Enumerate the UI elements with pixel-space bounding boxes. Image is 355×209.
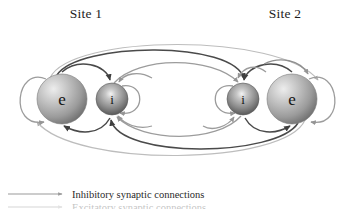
node-e1[interactable]: e xyxy=(37,74,87,124)
legend-label-excitatory: Excitatory synaptic connections xyxy=(72,202,206,209)
node-i1-label: i xyxy=(110,92,114,107)
site-2-title: Site 2 xyxy=(269,6,301,21)
arc-hook-i1-bottom xyxy=(118,116,152,127)
node-i2[interactable]: i xyxy=(227,83,259,115)
node-e2[interactable]: e xyxy=(267,74,317,124)
arc-i1-to-i2 xyxy=(114,63,238,83)
node-i2-label: i xyxy=(241,92,245,107)
legend-item-inhibitory: Inhibitory synaptic connections xyxy=(8,189,204,200)
legend: Inhibitory synaptic connections Excitato… xyxy=(8,189,206,209)
arc-e2-to-e1 xyxy=(37,120,305,156)
node-e1-label: e xyxy=(58,90,66,109)
legend-label-inhibitory: Inhibitory synaptic connections xyxy=(72,189,204,200)
arc-hook-i2-bottom xyxy=(203,117,234,128)
node-e2-label: e xyxy=(288,90,296,109)
site-1-title: Site 1 xyxy=(70,6,102,21)
network-diagram: Site 1 Site 2 xyxy=(0,0,355,209)
node-i1[interactable]: i xyxy=(96,83,128,115)
legend-item-excitatory: Excitatory synaptic connections xyxy=(8,202,206,209)
